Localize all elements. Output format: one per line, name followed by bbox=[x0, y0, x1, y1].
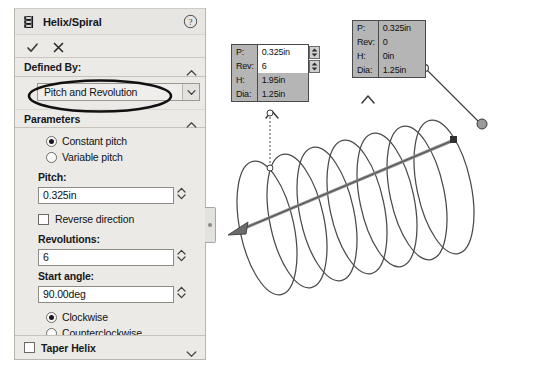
start-callout-pitch-spinner[interactable] bbox=[309, 46, 320, 59]
leader-line-start bbox=[267, 110, 273, 171]
revolutions-field-wrap bbox=[38, 247, 174, 264]
chevron-up-icon[interactable] bbox=[186, 63, 197, 71]
radio-indicator-variable-pitch bbox=[46, 152, 57, 163]
group-label-parameters: Parameters bbox=[24, 113, 80, 125]
radio-constant-pitch[interactable]: Constant pitch bbox=[24, 133, 196, 149]
svg-text:?: ? bbox=[189, 17, 193, 27]
end-callout-key-p: P: bbox=[353, 21, 379, 35]
group-header-taper-helix[interactable]: Taper Helix bbox=[15, 335, 205, 359]
help-circle-icon[interactable]: ? bbox=[183, 14, 198, 29]
start-callout-value-dia: 1.25in bbox=[258, 87, 308, 101]
start-angle-input[interactable] bbox=[38, 286, 174, 303]
end-callout-key-h: H: bbox=[353, 49, 379, 63]
panel-action-bar bbox=[15, 35, 205, 58]
helix-icon bbox=[21, 14, 37, 30]
defined-by-dropdown[interactable]: Pitch and Revolution bbox=[37, 83, 200, 101]
start-callout-rev-spinner[interactable] bbox=[309, 60, 320, 73]
defined-by-value: Pitch and Revolution bbox=[44, 86, 137, 98]
property-manager-panel: Helix/Spiral ? Defined By: bbox=[14, 8, 206, 360]
checkbox-indicator-taper-helix[interactable] bbox=[24, 342, 35, 353]
drag-handle-icon bbox=[477, 119, 487, 129]
start-callout-key-p: P: bbox=[232, 45, 258, 59]
group-label-taper-helix: Taper Helix bbox=[41, 342, 96, 354]
spinner-updown-icon[interactable] bbox=[175, 184, 187, 203]
end-callout-key-dia: Dia: bbox=[353, 63, 379, 77]
end-callout-value-h: 0in bbox=[379, 49, 425, 63]
pitch-input[interactable] bbox=[38, 187, 174, 204]
radio-indicator-clockwise bbox=[46, 312, 57, 323]
spinner-updown-icon[interactable] bbox=[175, 246, 187, 265]
parameters-body: Constant pitch Variable pitch Pitch: Rev… bbox=[15, 128, 205, 348]
radio-label-clockwise: Clockwise bbox=[62, 311, 108, 323]
group-label-defined-by: Defined By: bbox=[24, 61, 81, 73]
spinner-updown-icon[interactable] bbox=[175, 283, 187, 302]
end-callout-key-rev: Rev: bbox=[353, 35, 379, 49]
radio-clockwise[interactable]: Clockwise bbox=[24, 309, 196, 325]
close-x-icon[interactable] bbox=[52, 40, 65, 53]
revolutions-input[interactable] bbox=[38, 249, 174, 266]
graphics-area: P: 0.325in Rev: 6 H: 1.95in Dia: 1.25in bbox=[212, 0, 552, 378]
checkbox-reverse-direction[interactable]: Reverse direction bbox=[24, 211, 196, 227]
label-start-angle: Start angle: bbox=[38, 270, 196, 282]
chevron-down-icon[interactable] bbox=[186, 344, 197, 352]
radio-indicator-constant-pitch bbox=[46, 136, 57, 147]
leader-line-end bbox=[422, 65, 487, 129]
chevron-up-icon[interactable] bbox=[186, 115, 197, 123]
label-revolutions: Revolutions: bbox=[38, 233, 196, 245]
radio-label-variable-pitch: Variable pitch bbox=[62, 151, 123, 163]
start-callout-key-rev: Rev: bbox=[232, 59, 258, 73]
start-callout-key-h: H: bbox=[232, 73, 258, 87]
radio-label-constant-pitch: Constant pitch bbox=[62, 135, 127, 147]
start-callout[interactable]: P: 0.325in Rev: 6 H: 1.95in Dia: 1.25in bbox=[231, 44, 309, 102]
start-callout-value-rev[interactable]: 6 bbox=[258, 59, 308, 73]
pitch-field-wrap bbox=[38, 185, 174, 202]
end-callout-value-dia: 1.25in bbox=[379, 63, 425, 77]
panel-titlebar: Helix/Spiral ? bbox=[15, 9, 205, 35]
start-callout-key-dia: Dia: bbox=[232, 87, 258, 101]
panel-title: Helix/Spiral bbox=[43, 16, 102, 28]
label-pitch: Pitch: bbox=[38, 171, 196, 183]
start-callout-value-h: 1.95in bbox=[258, 73, 308, 87]
checkbox-label-reverse-direction: Reverse direction bbox=[55, 213, 134, 225]
end-callout-value-rev: 0 bbox=[379, 35, 425, 49]
end-callout-value-p: 0.325in bbox=[379, 21, 425, 35]
screenshot-root: Helix/Spiral ? Defined By: bbox=[0, 0, 552, 378]
radio-variable-pitch[interactable]: Variable pitch bbox=[24, 149, 196, 165]
axis-arrow-icon bbox=[228, 136, 457, 235]
group-header-defined-by[interactable]: Defined By: bbox=[15, 58, 205, 77]
start-angle-field-wrap bbox=[38, 284, 174, 301]
end-callout[interactable]: P: 0.325in Rev: 0 H: 0in Dia: 1.25in bbox=[352, 20, 426, 78]
checkbox-indicator-reverse-direction bbox=[38, 214, 49, 225]
chevron-down-icon[interactable] bbox=[182, 84, 199, 100]
start-callout-value-p[interactable]: 0.325in bbox=[258, 45, 308, 59]
group-header-parameters[interactable]: Parameters bbox=[15, 109, 205, 128]
checkmark-icon[interactable] bbox=[26, 40, 39, 53]
